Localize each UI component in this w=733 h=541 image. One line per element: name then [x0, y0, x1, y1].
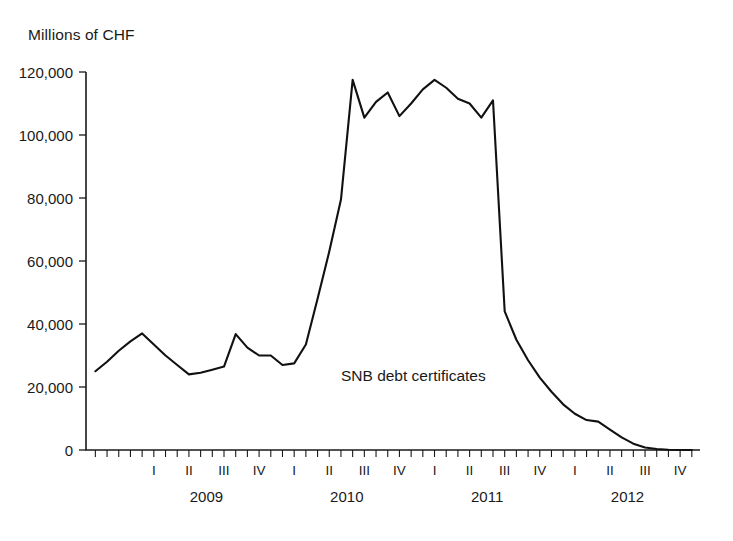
- x-axis-minor-ticks: [95, 450, 691, 457]
- x-quarter-label: III: [639, 463, 650, 478]
- x-year-label: 2009: [190, 488, 223, 505]
- x-year-label: 2011: [471, 488, 503, 505]
- x-quarter-label: IV: [533, 463, 546, 478]
- x-quarter-label: III: [499, 463, 510, 478]
- x-quarter-label: IV: [674, 463, 687, 478]
- y-tick-label: 20,000: [27, 379, 73, 396]
- chart-container: Millions of CHF 020,00040,00060,00080,00…: [0, 0, 733, 541]
- x-quarter-label: I: [152, 463, 156, 478]
- series-annotation-label: SNB debt certificates: [341, 367, 486, 384]
- axis-lines: [86, 72, 700, 450]
- y-tick-label: 60,000: [27, 253, 73, 270]
- x-quarter-label: III: [218, 463, 229, 478]
- x-quarter-label: IV: [393, 463, 406, 478]
- y-tick-label: 120,000: [19, 64, 73, 81]
- y-tick-label: 100,000: [19, 127, 73, 144]
- x-axis-year-labels: 2009201020112012: [190, 488, 644, 505]
- x-quarter-label: III: [359, 463, 370, 478]
- x-quarter-label: II: [466, 463, 474, 478]
- x-quarter-label: IV: [253, 463, 266, 478]
- y-tick-label: 80,000: [27, 190, 73, 207]
- y-tick-label: 0: [65, 442, 73, 459]
- x-quarter-label: I: [573, 463, 577, 478]
- x-quarter-label: II: [606, 463, 614, 478]
- x-year-label: 2012: [611, 488, 644, 505]
- y-axis-ticks: 020,00040,00060,00080,000100,000120,000: [19, 64, 86, 459]
- x-quarter-label: I: [433, 463, 437, 478]
- x-quarter-label: II: [326, 463, 334, 478]
- x-year-label: 2010: [330, 488, 363, 505]
- y-tick-label: 40,000: [27, 316, 73, 333]
- series-line-snb-debt-certificates: [95, 80, 691, 450]
- x-axis-quarter-labels: IIIIIIIVIIIIIIIVIIIIIIIVIIIIIIIV: [152, 463, 687, 478]
- x-quarter-label: I: [292, 463, 296, 478]
- line-chart: 020,00040,00060,00080,000100,000120,000 …: [0, 0, 733, 541]
- x-quarter-label: II: [185, 463, 193, 478]
